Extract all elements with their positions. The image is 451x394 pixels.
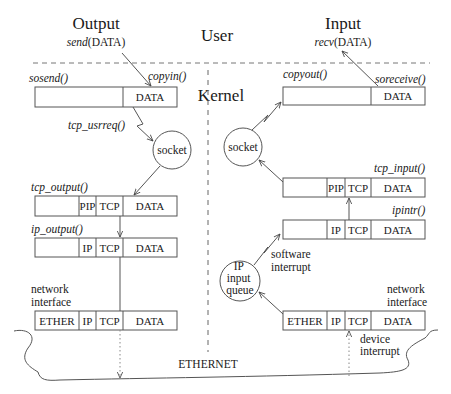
sosend-label: sosend()	[29, 72, 68, 85]
recv-call-label: recv(DATA)	[315, 36, 372, 49]
tcp-usrreq-zigzag-arrow	[133, 107, 153, 141]
socket-to-tcp-output-arrow	[134, 166, 160, 195]
tcp-ip-data-flow-diagram: Output Input User Kernel send(DATA) recv…	[0, 0, 451, 394]
svg-text:IP: IP	[83, 315, 93, 327]
ether-input-packet: ETHER IP TCP DATA	[283, 311, 425, 330]
svg-text:TCP: TCP	[348, 224, 368, 236]
input-heading: Input	[325, 14, 361, 33]
svg-text:DATA: DATA	[384, 182, 413, 194]
socket-to-copyout-zigzag-arrow	[252, 102, 281, 130]
svg-text:TCP: TCP	[348, 315, 368, 327]
send-to-copyin-arrow	[122, 53, 151, 86]
tcp-input-label: tcp_input()	[374, 162, 425, 175]
user-space-label: User	[201, 26, 233, 45]
ip-output-packet: IP TCP DATA	[35, 238, 177, 257]
device-interrupt-label: device interrupt	[360, 333, 400, 358]
ether-in-to-ip-queue-arrow	[259, 292, 283, 314]
svg-text:DATA: DATA	[136, 315, 165, 327]
svg-text:TCP: TCP	[348, 182, 368, 194]
svg-text:DATA: DATA	[136, 91, 165, 103]
copyout-label: copyout()	[283, 68, 327, 81]
copyin-label: copyin()	[148, 70, 186, 83]
svg-text:TCP: TCP	[99, 315, 119, 327]
tcp-output-packet: PIP TCP DATA	[35, 196, 177, 216]
socket-output-label: socket	[157, 144, 187, 156]
tcp-usrreq-label: tcp_usrreq()	[68, 119, 125, 132]
soreceive-buffer: DATA	[283, 87, 425, 105]
output-heading: Output	[72, 14, 120, 33]
tcp-input-packet: PIP TCP DATA	[283, 178, 425, 197]
ethernet-label: ETHERNET	[178, 358, 237, 370]
svg-text:IP: IP	[331, 315, 341, 327]
network-interface-input-label: network interface	[387, 283, 428, 308]
ip-output-label: ip_output()	[31, 223, 83, 236]
svg-text:DATA: DATA	[384, 90, 413, 102]
svg-text:IP: IP	[331, 224, 341, 236]
ipintr-label: ipintr()	[392, 204, 425, 217]
svg-text:ETHER: ETHER	[39, 315, 75, 327]
svg-text:ETHER: ETHER	[287, 315, 323, 327]
svg-text:TCP: TCP	[99, 242, 119, 254]
sosend-buffer: DATA	[35, 87, 177, 107]
ipintr-packet: IP TCP DATA	[283, 220, 425, 239]
svg-text:PIP: PIP	[328, 182, 344, 194]
kernel-space-label: Kernel	[198, 86, 245, 105]
svg-text:DATA: DATA	[384, 315, 413, 327]
svg-text:DATA: DATA	[136, 200, 165, 212]
tcp-input-to-socket-arrow	[259, 160, 283, 182]
svg-text:TCP: TCP	[99, 200, 119, 212]
soreceive-to-recv-arrow	[342, 51, 378, 86]
socket-input-label: socket	[228, 141, 258, 153]
svg-text:DATA: DATA	[136, 242, 165, 254]
tcp-output-label: tcp_output()	[31, 181, 88, 194]
svg-text:DATA: DATA	[384, 224, 413, 236]
send-call-label: send(DATA)	[67, 36, 126, 49]
ether-output-packet: ETHER IP TCP DATA	[35, 311, 177, 330]
svg-text:PIP: PIP	[80, 200, 96, 212]
soreceive-label: soreceive()	[375, 73, 426, 86]
svg-text:IP: IP	[83, 242, 93, 254]
software-interrupt-label: software interrupt	[271, 248, 313, 274]
network-interface-output-label: network interface	[31, 283, 72, 308]
